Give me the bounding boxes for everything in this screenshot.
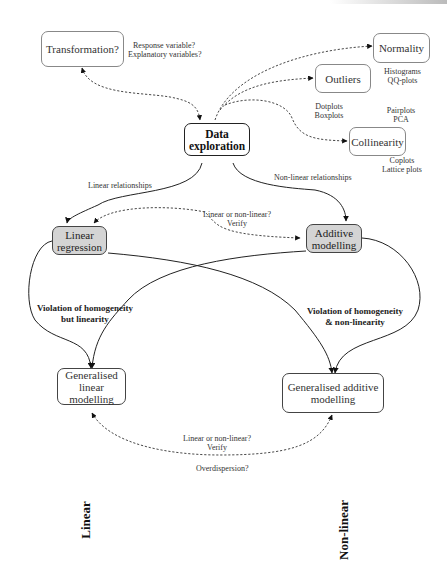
- note-line: PCA: [381, 115, 421, 124]
- note-line: Linear or non-linear?: [180, 434, 254, 443]
- edge-data-linear: [67, 163, 202, 223]
- node-additive-modelling: Additive modelling: [306, 224, 362, 253]
- note-line: Verify: [200, 219, 274, 228]
- linear-relationships-label: Linear relationships: [88, 181, 152, 190]
- node-label: regression: [57, 241, 102, 253]
- note-line: QQ-plots: [380, 76, 425, 85]
- node-label: modelling: [312, 239, 357, 251]
- node-label: Transformation?: [46, 43, 119, 55]
- outliers-note: Dotplots Boxplots: [309, 102, 349, 120]
- edge-data-outliers: [220, 78, 313, 110]
- note-line: Boxplots: [309, 111, 349, 120]
- node-transformation: Transformation?: [41, 31, 124, 67]
- note-line: Linear relationships: [88, 181, 152, 190]
- label-line: & non-linearity: [300, 317, 410, 328]
- violation-linear-label: Violation of homogeneity but linearity: [30, 303, 140, 325]
- node-normality: Normality: [373, 33, 430, 63]
- node-collinearity: Collinearity: [349, 127, 406, 156]
- linear-axis-label: Linear: [78, 495, 94, 545]
- node-label: Data: [205, 128, 229, 140]
- node-outliers: Outliers: [315, 64, 371, 93]
- nonlinear-axis-label: Non-linear: [336, 490, 352, 570]
- violation-nonlinear-label: Violation of homogeneity & non-linearity: [300, 306, 410, 328]
- transformation-note: Response variable? Explanatory variables…: [128, 41, 200, 59]
- edge-linear-gam: [108, 253, 332, 373]
- node-data-exploration: Data exploration: [184, 123, 250, 156]
- note-line: Non-linear relationships: [274, 173, 352, 182]
- node-label: linear modelling: [58, 381, 125, 405]
- note-line: Response variable?: [128, 41, 200, 50]
- node-label: Additive: [315, 227, 354, 239]
- normality-note: Histograms QQ-plots: [380, 67, 425, 85]
- node-label: Generalised: [65, 369, 118, 381]
- note-line: Pairplots: [381, 106, 421, 115]
- node-label: Collinearity: [351, 136, 404, 148]
- verify-top-note: Linear or non-linear? Verify: [200, 210, 274, 228]
- note-line: Histograms: [380, 67, 425, 76]
- collinearity-note: Coplots Lattice plots: [377, 156, 427, 174]
- label-line: Violation of homogeneity: [30, 303, 140, 314]
- node-linear-regression: Linear regression: [52, 226, 107, 255]
- note-line: Lattice plots: [377, 165, 427, 174]
- note-line: Coplots: [377, 156, 427, 165]
- edge-transformation-data: [82, 68, 200, 120]
- node-gam: Generalised additive modelling: [282, 373, 384, 413]
- node-label: Normality: [379, 42, 424, 54]
- node-label: modelling: [311, 393, 356, 405]
- node-label: Linear: [65, 229, 94, 241]
- node-label: Outliers: [325, 73, 360, 85]
- note-line: Overdispersion?: [196, 464, 248, 473]
- note-line: Explanatory variables?: [128, 50, 200, 59]
- diagram-edges: [0, 0, 447, 578]
- note-line: Linear or non-linear?: [200, 210, 274, 219]
- note-line: Verify: [180, 443, 254, 452]
- node-label: exploration: [189, 140, 245, 152]
- label-line: Violation of homogeneity: [300, 306, 410, 317]
- label-line: but linearity: [30, 314, 140, 325]
- note-line: Dotplots: [309, 102, 349, 111]
- overdispersion-note: Overdispersion?: [196, 464, 248, 473]
- verify-bottom-note: Linear or non-linear? Verify: [180, 434, 254, 452]
- collinearity-pre-note: Pairplots PCA: [381, 106, 421, 124]
- node-label: Generalised additive: [288, 381, 379, 393]
- node-glm: Generalised linear modelling: [57, 368, 126, 405]
- nonlinear-relationships-label: Non-linear relationships: [274, 173, 352, 182]
